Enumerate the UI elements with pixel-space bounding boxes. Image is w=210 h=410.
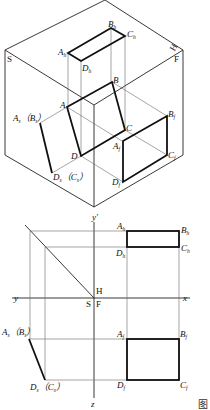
label-dh-iso: Dh <box>81 63 92 74</box>
label-f-quadrant: F <box>96 299 101 309</box>
label-ds-cs-iso: Ds（Cs） <box>52 172 88 183</box>
label-df: Df <box>116 380 127 391</box>
label-as-bs-iso: As（Bs） <box>12 113 46 124</box>
label-h-quadrant: H <box>96 286 103 296</box>
label-c: C <box>126 123 133 133</box>
label-y-prime: y' <box>91 212 99 222</box>
label-a: A <box>59 100 66 110</box>
label-z: z <box>90 399 95 409</box>
figure-caption: 图 <box>198 396 208 410</box>
label-af-iso: Af <box>112 141 122 152</box>
label-bh: Bh <box>181 225 190 236</box>
front-projection-rect <box>127 339 179 380</box>
side-projection-line <box>29 339 45 380</box>
label-b: B <box>113 75 119 85</box>
label-as-bs: As（Bs） <box>1 327 35 338</box>
cube-frame <box>5 0 183 207</box>
label-dh: Dh <box>115 248 126 259</box>
label-ch: Ch <box>181 243 190 254</box>
label-ds-cs: Ds（Cs） <box>29 382 65 393</box>
label-bh-iso: Bh <box>108 19 117 30</box>
label-ch-iso: Ch <box>127 29 136 40</box>
ortho-axes <box>12 222 190 398</box>
plane-horizontal-projection-iso <box>68 28 125 61</box>
label-s-quadrant: S <box>86 299 91 309</box>
label-bf: Bf <box>180 329 189 340</box>
horizontal-projection-rect <box>127 231 179 247</box>
label-ah-iso: Ah <box>57 47 67 58</box>
label-ah: Ah <box>116 221 126 232</box>
label-y: y <box>13 293 18 303</box>
label-plane-f: F <box>174 54 179 64</box>
plane-side-projection-iso <box>40 123 52 173</box>
label-df-iso: Df <box>111 177 122 188</box>
label-af: Af <box>116 329 126 340</box>
label-plane-h: H <box>168 42 180 53</box>
label-bf-iso: Bf <box>168 109 177 120</box>
label-plane-s: S <box>7 54 12 64</box>
label-d: D <box>70 151 78 161</box>
label-x: x <box>182 293 187 303</box>
label-cf: Cf <box>180 380 189 391</box>
projection-diagram: S F H Ah Bh Ch Dh A B C D Bf Af Cf Df As… <box>0 0 210 410</box>
